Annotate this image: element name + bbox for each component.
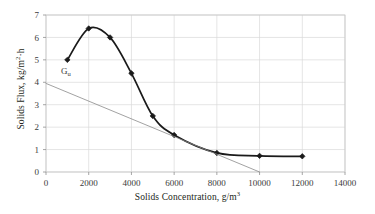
plot-border	[46, 15, 345, 172]
y-tick-label: 4	[35, 77, 40, 87]
y-tick-label: 0	[35, 167, 40, 177]
series-line	[46, 83, 260, 172]
data-point-marker	[300, 154, 305, 159]
x-tick-label: 0	[44, 178, 49, 188]
x-tick-label: 4000	[122, 178, 141, 188]
x-axis-label: Solids Concentration, g/m3	[0, 192, 375, 202]
x-tick-label: 14000	[334, 178, 357, 188]
chart-figure: 0123456702000400060008000100001200014000…	[0, 0, 375, 214]
y-axis-label: Solids Flux, kg/m2·h	[16, 48, 26, 129]
underflow-flux-label-subscript: u	[67, 70, 71, 77]
axis-frame	[46, 15, 345, 172]
data-point-marker	[257, 153, 262, 158]
y-tick-label: 2	[35, 122, 40, 132]
y-axis-label-superscript: 2	[14, 57, 21, 60]
series-line	[67, 27, 302, 156]
y-tick-label: 1	[35, 145, 40, 155]
x-tick-label: 10000	[248, 178, 271, 188]
x-tick-label: 12000	[291, 178, 314, 188]
chart-svg: 0123456702000400060008000100001200014000…	[0, 0, 375, 214]
data-series	[46, 83, 260, 172]
underflow-flux-label-text: Gu	[61, 66, 71, 77]
y-axis-label-holder: Solids Flux, kg/m2·h	[10, 9, 24, 169]
y-tick-label: 7	[35, 10, 40, 20]
x-tick-label: 2000	[80, 178, 99, 188]
underflow-flux-label: Gu	[61, 66, 71, 77]
plot-area: 0123456702000400060008000100001200014000…	[0, 0, 375, 214]
y-tick-label: 6	[35, 33, 40, 43]
y-axis-label-text: Solids Flux, kg/m	[16, 60, 26, 130]
x-axis-label-superscript: 3	[237, 190, 240, 197]
y-tick-label: 3	[35, 100, 40, 110]
grid-lines	[46, 15, 345, 172]
y-tick-label: 5	[35, 55, 40, 65]
data-series	[65, 26, 305, 159]
y-axis-label-suffix: ·h	[16, 48, 26, 56]
x-axis-label-text: Solids Concentration, g/m	[135, 192, 237, 202]
x-tick-label: 8000	[208, 178, 227, 188]
x-tick-label: 6000	[165, 178, 184, 188]
tick-marks	[43, 15, 345, 175]
